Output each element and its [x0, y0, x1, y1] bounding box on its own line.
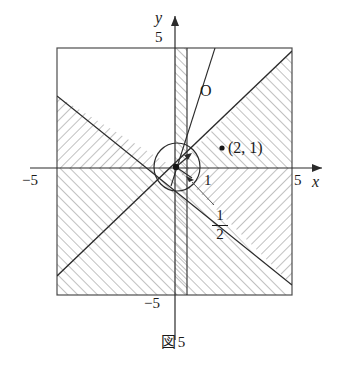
origin-label: O — [200, 83, 212, 99]
hatch-vertical-band — [175, 48, 187, 295]
x-axis-arrowhead — [312, 164, 322, 172]
x-tick-right-label: 5 — [294, 173, 302, 188]
point-marker-2-1 — [219, 145, 224, 150]
x-axis-label: x — [312, 174, 319, 190]
fraction-denominator: 2 — [212, 227, 228, 243]
radius-one-label: 1 — [204, 173, 212, 188]
hatch-upper-left — [57, 96, 175, 168]
caption-number: 5 — [178, 334, 188, 350]
y-axis-arrowhead — [171, 16, 179, 26]
x-tick-left-label: −5 — [22, 173, 38, 188]
figure-caption: 図5 — [0, 330, 348, 351]
caption-symbol: 図 — [161, 333, 178, 351]
point-marker-center — [173, 164, 179, 170]
y-axis-label: y — [155, 10, 162, 26]
y-tick-bottom-label: −5 — [144, 296, 160, 311]
fraction-numerator: 1 — [212, 208, 228, 224]
y-tick-top-label: 5 — [155, 30, 163, 45]
one-half-fraction-label: 1 2 — [212, 208, 228, 243]
figure-container: y 5 −5 −5 5 x O (2, 1) 1 1 2 図5 — [0, 0, 348, 369]
point-2-1-label: (2, 1) — [228, 140, 263, 156]
